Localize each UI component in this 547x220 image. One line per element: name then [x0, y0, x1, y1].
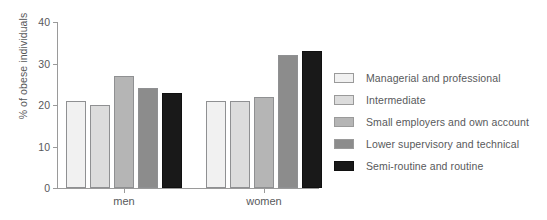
legend-item-label: Intermediate: [366, 94, 426, 106]
legend-item-label: Semi-routine and routine: [366, 160, 483, 172]
obesity-bar-chart: % of obese individuals 010203040 menwome…: [0, 0, 547, 220]
bar: [114, 76, 134, 188]
bar: [302, 51, 322, 188]
legend-item: Semi-routine and routine: [334, 155, 544, 177]
bar: [90, 105, 110, 188]
plot-area: [58, 22, 318, 188]
legend-item: Managerial and professional: [334, 67, 544, 89]
legend-item: Small employers and own account: [334, 111, 544, 133]
y-tick-label: 10: [38, 141, 50, 153]
bar: [254, 97, 274, 188]
legend-swatch: [334, 117, 354, 127]
bar: [230, 101, 250, 188]
x-tick-label: women: [246, 195, 281, 207]
legend: Managerial and professionalIntermediateS…: [334, 67, 544, 177]
bar: [66, 101, 86, 188]
legend-swatch: [334, 139, 354, 149]
bar: [278, 55, 298, 188]
legend-item: Lower supervisory and technical: [334, 133, 544, 155]
legend-item-label: Small employers and own account: [366, 116, 529, 128]
bar: [206, 101, 226, 188]
legend-swatch: [334, 95, 354, 105]
y-tick-label: 0: [44, 182, 50, 194]
x-tick-label: men: [113, 195, 134, 207]
legend-swatch: [334, 73, 354, 83]
y-axis-tick-labels: 010203040: [0, 0, 62, 220]
y-tick-label: 30: [38, 58, 50, 70]
y-tick-label: 20: [38, 99, 50, 111]
bar: [162, 93, 182, 188]
x-axis-line: [57, 188, 319, 189]
bar: [138, 88, 158, 188]
legend-item-label: Managerial and professional: [366, 72, 501, 84]
legend-item-label: Lower supervisory and technical: [366, 138, 519, 150]
legend-swatch: [334, 161, 354, 171]
legend-item: Intermediate: [334, 89, 544, 111]
y-tick-label: 40: [38, 16, 50, 28]
x-tick-mark: [264, 189, 265, 193]
x-tick-mark: [124, 189, 125, 193]
